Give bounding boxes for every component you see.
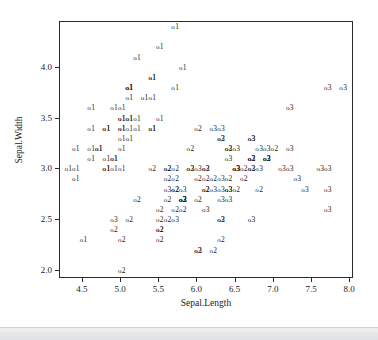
data-point-marker: o: [87, 145, 91, 153]
data-point: o2: [171, 176, 179, 185]
data-point-marker: o: [171, 216, 175, 224]
data-point-label: 3: [221, 195, 225, 204]
data-point: o3: [225, 186, 233, 195]
data-point-marker: o: [278, 165, 282, 173]
data-point-marker: o: [232, 186, 236, 194]
data-point-label: 2: [175, 175, 179, 184]
data-point: o1: [133, 115, 141, 124]
data-point-label: 2: [114, 225, 118, 234]
data-point: o1: [72, 176, 80, 185]
data-point: o3: [255, 165, 263, 174]
data-point: o3: [187, 165, 195, 174]
data-point-label: 1: [152, 93, 156, 102]
data-point: o3: [179, 186, 187, 195]
data-point-label: 1: [76, 144, 80, 153]
data-point: o3: [316, 165, 324, 174]
data-point-marker: o: [286, 145, 290, 153]
data-point-marker: o: [118, 135, 122, 143]
data-point-marker: o: [126, 135, 130, 143]
data-point-marker: o: [171, 84, 175, 92]
data-point: o3: [232, 145, 240, 154]
data-point: o2: [210, 176, 218, 185]
data-point: o3: [210, 186, 218, 195]
y-tick-mark: [55, 270, 59, 271]
data-point: o1: [171, 84, 179, 93]
data-point-marker: o: [118, 115, 122, 123]
data-point-marker: o: [118, 145, 122, 153]
x-tick-label: 7.0: [258, 284, 288, 294]
x-axis-label: Sepal.Length: [59, 298, 353, 308]
data-point: o2: [156, 236, 164, 245]
data-point-marker: o: [148, 165, 152, 173]
data-point-marker: o: [110, 155, 114, 163]
data-point-marker: o: [225, 155, 229, 163]
data-point: o2: [110, 226, 118, 235]
data-point-marker: o: [156, 206, 160, 214]
data-point-label: 3: [229, 195, 233, 204]
data-point-label: 3: [328, 164, 332, 173]
data-point-marker: o: [148, 125, 152, 133]
data-point-label: 1: [114, 154, 118, 163]
data-point-marker: o: [156, 236, 160, 244]
data-point-marker: o: [271, 145, 275, 153]
data-point: o3: [225, 196, 233, 205]
data-point-label: 3: [252, 134, 256, 143]
data-point-marker: o: [194, 125, 198, 133]
data-point-label: 3: [206, 205, 210, 214]
data-point-label: 3: [221, 215, 225, 224]
data-point-marker: o: [225, 145, 229, 153]
data-point-label: 2: [274, 144, 278, 153]
data-point-label: 2: [183, 205, 187, 214]
data-point-marker: o: [179, 186, 183, 194]
data-point: o2: [194, 125, 202, 134]
data-point-label: 2: [160, 235, 164, 244]
data-point: o2: [202, 186, 210, 195]
data-point-marker: o: [210, 247, 214, 255]
data-point-marker: o: [286, 165, 290, 173]
data-point-marker: o: [103, 155, 107, 163]
data-point: o1: [118, 125, 126, 134]
data-point: o2: [171, 186, 179, 195]
data-point-marker: o: [324, 186, 328, 194]
x-tick-label: 4.5: [67, 284, 97, 294]
data-point-label: 1: [91, 154, 95, 163]
data-point: o3: [232, 165, 240, 174]
data-point-label: 3: [198, 246, 202, 255]
data-point-marker: o: [87, 125, 91, 133]
data-point-label: 1: [76, 164, 80, 173]
data-point: o1: [171, 23, 179, 32]
data-point: o1: [118, 104, 126, 113]
data-point-label: 1: [129, 124, 133, 133]
data-point-label: 1: [129, 134, 133, 143]
data-point: o1: [103, 125, 111, 134]
data-point-marker: o: [240, 165, 244, 173]
data-point: o2: [171, 165, 179, 174]
x-tick-mark: [349, 278, 350, 282]
data-point: o3: [171, 216, 179, 225]
x-tick-label: 5.5: [143, 284, 173, 294]
data-point-label: 3: [206, 164, 210, 173]
data-point-label: 3: [267, 144, 271, 153]
data-point: o2: [194, 196, 202, 205]
data-point-label: 3: [252, 154, 256, 163]
data-point-label: 1: [183, 63, 187, 72]
data-point-marker: o: [110, 216, 114, 224]
data-point-marker: o: [248, 135, 252, 143]
data-point-marker: o: [156, 115, 160, 123]
data-point-label: 1: [122, 103, 126, 112]
data-point: o1: [126, 115, 134, 124]
data-point-label: 2: [198, 195, 202, 204]
data-point-marker: o: [179, 206, 183, 214]
data-point-marker: o: [171, 23, 175, 31]
data-point-marker: o: [118, 267, 122, 275]
x-tick-label: 5.0: [105, 284, 135, 294]
data-point-label: 1: [91, 103, 95, 112]
data-point-label: 3: [252, 215, 256, 224]
data-point-marker: o: [187, 145, 191, 153]
data-point-label: 1: [152, 73, 156, 82]
data-point-marker: o: [286, 104, 290, 112]
data-point-marker: o: [210, 186, 214, 194]
data-point-marker: o: [141, 94, 145, 102]
data-point: o3: [263, 155, 271, 164]
data-point: o2: [118, 267, 126, 276]
